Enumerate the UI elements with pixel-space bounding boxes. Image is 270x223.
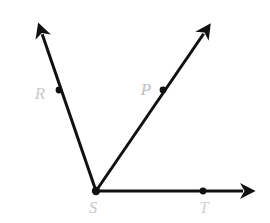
point-dot-p — [160, 87, 167, 94]
vertex-dot-s — [92, 187, 100, 195]
point-dot-t — [200, 188, 207, 195]
point-dot-r — [56, 87, 63, 94]
ray-sr-line — [42, 34, 96, 191]
vertex-label-s: S — [89, 198, 98, 217]
ray-sp-line — [96, 34, 204, 191]
geometry-diagram: R P T S — [0, 0, 270, 223]
point-label-r: R — [34, 84, 46, 103]
point-label-t: T — [199, 198, 210, 217]
geometry-canvas: R P T S — [0, 0, 270, 223]
point-label-p: P — [140, 80, 151, 99]
